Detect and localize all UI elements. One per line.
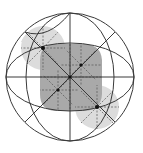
point-upper-left xyxy=(41,46,45,50)
sphere-grid-diagram xyxy=(0,0,143,153)
point-lower-right xyxy=(95,105,99,109)
point-inner-upper-right xyxy=(79,63,82,66)
point-center xyxy=(68,75,71,78)
point-inner-lower-left xyxy=(56,88,59,91)
